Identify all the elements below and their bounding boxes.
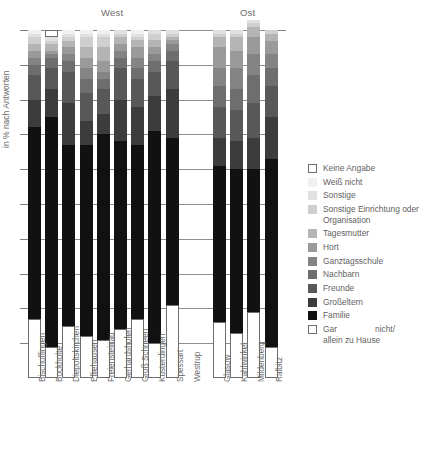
- bar-segment: [213, 138, 226, 166]
- bar-gro-schneen[interactable]: [131, 30, 144, 378]
- bar-bischoffingen[interactable]: [28, 30, 41, 378]
- y-axis-tick-40: [20, 239, 28, 240]
- x-tick-mildenberg: Mildenberg: [257, 341, 266, 382]
- y-axis-tick-80: [20, 100, 28, 101]
- bar-gerhardshofen[interactable]: [114, 30, 127, 378]
- bar-segment: [247, 27, 260, 37]
- legend-item[interactable]: Garnicht/allein zu Hause: [308, 324, 420, 345]
- y-axis-tick-50: [20, 204, 28, 205]
- bar-segment: [80, 58, 93, 68]
- bar-segment: [230, 89, 243, 110]
- bar-segment: [62, 72, 75, 103]
- x-tick-elliehausen: Elliehausen: [90, 340, 99, 382]
- bar-segment: [45, 89, 58, 117]
- legend-item[interactable]: Großeltern: [308, 297, 420, 308]
- bar-segment: [213, 37, 226, 47]
- bar-segment: [131, 79, 144, 107]
- legend-label: Tagesmutter: [323, 228, 369, 239]
- y-axis-tick-60: [20, 169, 28, 170]
- bar-segment: [114, 44, 127, 51]
- legend-label: Keine Angabe: [323, 163, 375, 174]
- bar-glasow[interactable]: [213, 30, 226, 378]
- bar-segment: [97, 72, 110, 79]
- bar-segment: [80, 47, 93, 57]
- bar-segment: [148, 34, 161, 41]
- legend-swatch: [308, 270, 317, 279]
- legend-label: Weiß nicht: [323, 177, 362, 188]
- bar-segment: [97, 47, 110, 61]
- legend-item[interactable]: Freunde: [308, 283, 420, 294]
- bar-kusterdingen[interactable]: [148, 30, 161, 378]
- bar-segment: [148, 47, 161, 54]
- group-label-ost: Ost: [240, 7, 255, 18]
- legend-item[interactable]: Familie: [308, 310, 420, 321]
- bar-segment: [213, 166, 226, 323]
- bar-segment: [80, 68, 93, 78]
- bar-segment: [265, 117, 278, 159]
- bar-segment: [265, 159, 278, 347]
- y-axis-tick-100: [20, 30, 28, 31]
- legend-swatch: [308, 257, 317, 266]
- bar-segment: [45, 30, 58, 37]
- bar-segment: [247, 103, 260, 138]
- x-tick-bischoffingen: Bischoffingen: [38, 333, 47, 382]
- bar-segment: [265, 34, 278, 41]
- legend-swatch: [308, 191, 317, 200]
- bar-segment: [213, 86, 226, 107]
- bar-segment: [131, 68, 144, 78]
- bar-ralbitz[interactable]: [265, 30, 278, 378]
- bar-segment: [62, 41, 75, 48]
- legend-item[interactable]: Sonstige Einrichtung oder Organisation: [308, 204, 420, 225]
- bar-series-container: [28, 30, 278, 378]
- legend-item[interactable]: Hort: [308, 242, 420, 253]
- legend-swatch: [308, 284, 317, 293]
- legend-item[interactable]: Ganztagsschule: [308, 256, 420, 267]
- bar-segment: [247, 138, 260, 169]
- legend-swatch: [308, 229, 317, 238]
- bar-segment: [28, 65, 41, 75]
- legend-item[interactable]: Weiß nicht: [308, 177, 420, 188]
- bar-segment: [97, 79, 110, 89]
- bar-elliehausen[interactable]: [80, 30, 93, 378]
- bar-mildenberg[interactable]: [247, 20, 260, 378]
- bar-segment: [45, 117, 58, 347]
- x-tick-spessart: Spessart: [176, 350, 185, 382]
- legend-item[interactable]: Tagesmutter: [308, 228, 420, 239]
- bar-segment: [114, 51, 127, 58]
- bar-segment: [131, 58, 144, 68]
- bar-segment: [247, 75, 260, 103]
- legend-item[interactable]: Keine Angabe: [308, 163, 420, 174]
- bar-segment: [213, 107, 226, 138]
- legend-swatch: [308, 325, 317, 334]
- bar-spessart[interactable]: [166, 30, 179, 378]
- bar-segment: [148, 131, 161, 343]
- x-tick-gerhardshofen: Gerhardshofen: [124, 327, 133, 382]
- bar-segment: [148, 61, 161, 71]
- legend-label: Sonstige: [323, 190, 356, 201]
- bar-segment: [114, 68, 127, 99]
- bar-segment: [114, 141, 127, 329]
- legend-label: Familie: [323, 310, 350, 321]
- bar-segment: [131, 107, 144, 145]
- bar-segment: [45, 58, 58, 68]
- bar-segment: [265, 54, 278, 68]
- bar-segment: [62, 47, 75, 54]
- bar-segment: [28, 58, 41, 65]
- legend-swatch: [308, 164, 317, 173]
- bar-bockholte[interactable]: [45, 30, 58, 378]
- bar-segment: [97, 134, 110, 339]
- bar-kahlwinkel[interactable]: [230, 30, 243, 378]
- y-axis-label: in % nach Antworten: [1, 18, 11, 148]
- y-axis-tick-30: [20, 274, 28, 275]
- x-tick-kahlwinkel: Kahlwinkel: [240, 343, 249, 382]
- bar-segment: [131, 145, 144, 319]
- bar-freiensteinau[interactable]: [97, 30, 110, 378]
- legend-item[interactable]: Sonstige: [308, 190, 420, 201]
- bar-segment: [230, 169, 243, 333]
- bar-segment: [80, 121, 93, 145]
- bar-segment: [166, 61, 179, 89]
- bar-segment: [148, 96, 161, 131]
- legend-item[interactable]: Nachbarn: [308, 269, 420, 280]
- bar-segment: [148, 40, 161, 47]
- bar-segment: [97, 61, 110, 71]
